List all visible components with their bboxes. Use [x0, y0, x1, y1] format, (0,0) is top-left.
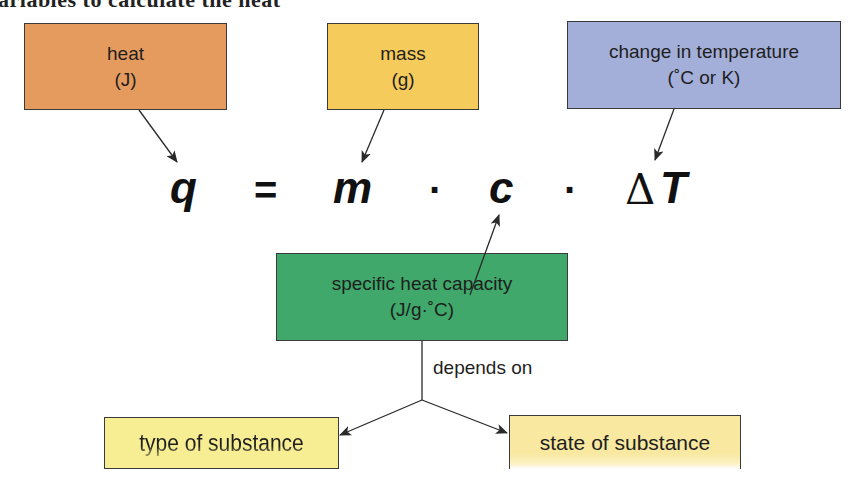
arrow-temperature-to-delta-t — [655, 109, 674, 160]
temperature-change-label: change in temperature — [609, 39, 799, 65]
specific-heat-capacity-box: specific heat capacity (J/g·˚C) — [276, 253, 568, 341]
temperature-change-unit: (˚C or K) — [668, 65, 741, 91]
equation-T: T — [660, 158, 687, 218]
equation-delta: Δ — [625, 160, 655, 220]
specific-heat-capacity-label: specific heat capacity — [332, 271, 513, 297]
mass-unit: (g) — [391, 67, 414, 93]
state-of-substance-label: state of substance — [540, 430, 710, 456]
equation-dot-1: · — [429, 160, 442, 220]
equation-equals: = — [254, 160, 277, 220]
arrow-to-state-of-substance — [422, 400, 507, 433]
partial-caption-text: ariables to calculate the heat — [0, 0, 281, 13]
arrow-heat-to-q — [139, 110, 177, 162]
heat-unit: (J) — [114, 67, 136, 93]
equation-q: q — [170, 158, 197, 218]
equation-m: m — [333, 158, 372, 218]
equation-dot-2: · — [564, 160, 577, 220]
type-of-substance-box: type of substance — [104, 417, 339, 469]
mass-box: mass (g) — [327, 23, 479, 110]
arrow-to-type-of-substance — [340, 400, 422, 435]
arrow-mass-to-m — [362, 110, 384, 162]
mass-label: mass — [380, 41, 425, 67]
depends-on-label: depends on — [433, 357, 532, 379]
specific-heat-capacity-unit: (J/g·˚C) — [390, 297, 454, 323]
temperature-change-box: change in temperature (˚C or K) — [567, 21, 841, 109]
state-of-substance-box: state of substance — [509, 415, 741, 469]
heat-label: heat — [107, 41, 144, 67]
equation-c: c — [489, 158, 513, 218]
type-of-substance-label: type of substance — [139, 429, 304, 458]
heat-box: heat (J) — [24, 23, 227, 110]
